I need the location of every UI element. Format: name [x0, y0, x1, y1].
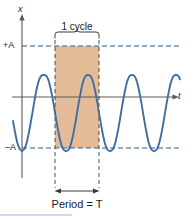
shm-waveform-figure: x t +A –A 1 cycle Period = T [0, 0, 194, 219]
period-label: Period = T [37, 199, 117, 210]
t-axis-label: t [178, 92, 181, 101]
period-arrow-right-head-icon [93, 189, 100, 194]
y-axis-arrowhead-icon [19, 14, 24, 21]
waveform-plot-svg [0, 0, 194, 219]
y-axis-label: x [18, 5, 23, 14]
bottom-rule-decoration [0, 214, 72, 216]
positive-amplitude-label: +A [3, 41, 14, 50]
negative-amplitude-label: –A [5, 143, 16, 152]
one-cycle-label: 1 cycle [55, 22, 99, 32]
period-arrow-left-head-icon [55, 189, 62, 194]
